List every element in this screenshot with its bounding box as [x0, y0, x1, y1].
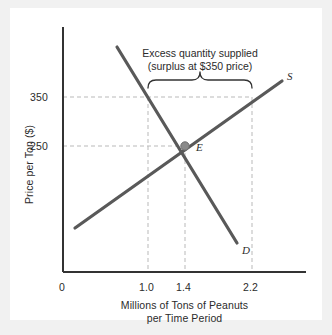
surplus-annotation: Excess quantity supplied (surplus at $35… — [140, 48, 260, 71]
supply-curve[interactable] — [75, 81, 282, 228]
y-tick-label-350: 350 — [30, 92, 48, 103]
equilibrium-point-label: E — [196, 142, 203, 153]
demand-curve-label: D — [242, 245, 250, 256]
y-axis-title: Price per Ton ($) — [24, 125, 35, 204]
figure-container: 350 250 Price per Ton ($) 0 1.0 1.4 2.2 … — [0, 0, 332, 335]
curves — [75, 47, 282, 243]
x-axis-title-line-2: per Time Period — [63, 312, 306, 325]
equilibrium-point-marker[interactable] — [181, 142, 189, 150]
surplus-annotation-line-2: (surplus at $350 price) — [140, 61, 260, 72]
supply-curve-label: S — [287, 71, 293, 82]
surplus-annotation-line-1: Excess quantity supplied — [140, 48, 260, 59]
demand-curve[interactable] — [117, 47, 237, 243]
surplus-brace — [148, 72, 252, 88]
x-tick-label-1-4: 1.4 — [176, 282, 191, 293]
x-tick-label-1-0: 1.0 — [139, 282, 154, 293]
x-axis-title: Millions of Tons of Peanuts per Time Per… — [63, 299, 306, 325]
x-tick-label-0: 0 — [59, 282, 65, 293]
x-axis-title-line-1: Millions of Tons of Peanuts — [63, 299, 306, 312]
figure-card: 350 250 Price per Ton ($) 0 1.0 1.4 2.2 … — [10, 8, 322, 320]
x-tick-label-2-2: 2.2 — [243, 282, 258, 293]
